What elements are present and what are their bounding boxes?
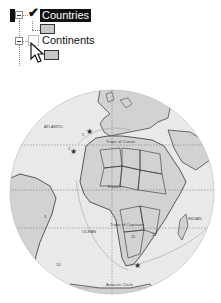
label-antarctic-circle: Antarctic Circle xyxy=(106,282,134,287)
marker-label: 13 xyxy=(56,262,61,267)
marker-label: 12 xyxy=(152,232,157,237)
label-equator: Equator xyxy=(108,184,123,189)
label-ocean: OCEAN xyxy=(82,229,96,234)
globe-map[interactable]: ATLANTIC Tropic of Cancer Equator Tropic… xyxy=(0,70,221,303)
tree-line xyxy=(32,30,40,31)
label-tropic-of-capricorn: Tropic of Capricorn xyxy=(110,222,144,227)
layer-checkbox-countries[interactable]: ✔ xyxy=(28,9,39,20)
layer-label-countries[interactable]: Countries xyxy=(40,9,91,22)
label-indian: INDIAN xyxy=(188,216,202,221)
legend-swatch-countries[interactable] xyxy=(40,24,55,34)
label-atlantic: ATLANTIC xyxy=(44,124,63,129)
layer-tree: ✔ Countries Continents xyxy=(0,0,221,70)
collapse-toggle-countries[interactable] xyxy=(15,11,23,19)
collapse-toggle-continents[interactable] xyxy=(15,37,23,45)
star-marker-icon[interactable]: ★ xyxy=(70,147,77,156)
label-tropic-of-cancer: Tropic of Cancer xyxy=(106,139,136,144)
checkmark-icon: ✔ xyxy=(28,6,39,20)
mouse-pointer-icon xyxy=(30,42,46,64)
legend-swatch-continents[interactable] xyxy=(44,50,59,60)
tree-line xyxy=(32,21,33,30)
star-marker-icon[interactable]: ★ xyxy=(86,127,93,136)
star-marker-icon[interactable]: ★ xyxy=(134,261,141,270)
layer-label-continents[interactable]: Continents xyxy=(40,34,97,47)
